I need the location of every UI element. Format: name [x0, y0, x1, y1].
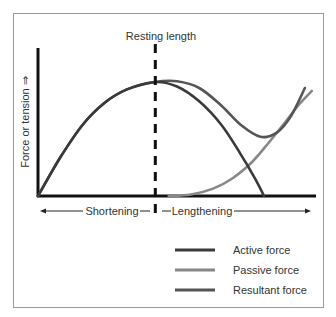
- lengthening-label: Lengthening: [172, 205, 233, 217]
- y-axis-label: Force or tension ⇒: [19, 76, 31, 168]
- shortening-label: Shortening: [85, 205, 138, 217]
- legend-label-passive-force: Passive force: [233, 264, 299, 276]
- length-tension-chart: Resting length Force or tension ⇒ Shorte…: [0, 0, 336, 317]
- legend-label-resultant-force: Resultant force: [233, 284, 307, 296]
- legend-label-active-force: Active force: [233, 244, 290, 256]
- resting-length-label: Resting length: [126, 30, 196, 42]
